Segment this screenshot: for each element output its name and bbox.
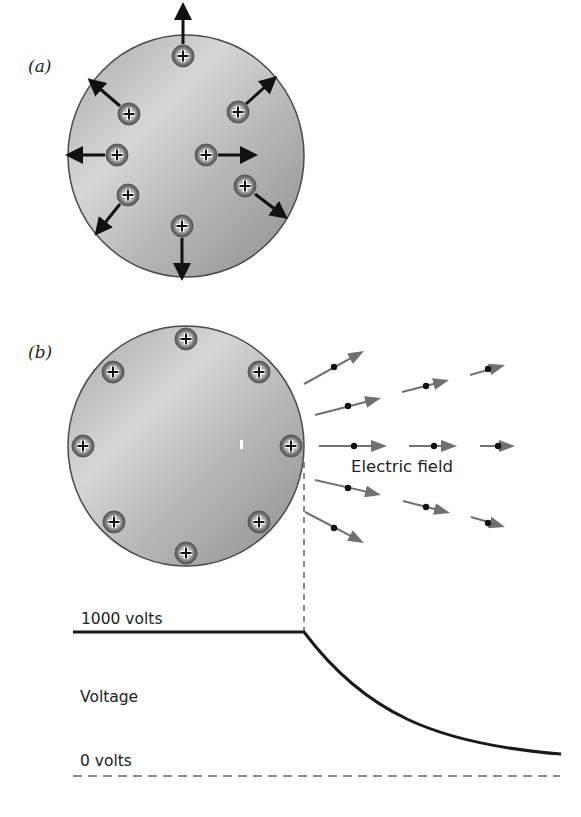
positive-charge-icon bbox=[118, 103, 140, 125]
voltage-1000-label: 1000 volts bbox=[81, 610, 163, 628]
electric-field-diagram: (a) (b) Electric field 1000 volts Voltag… bbox=[0, 0, 581, 817]
panel-a-repelling-charges: (a) bbox=[28, 17, 304, 277]
positive-charge-icon bbox=[248, 361, 270, 383]
positive-charge-icon bbox=[248, 511, 270, 533]
positive-charge-icon bbox=[72, 435, 94, 457]
field-vector-arrow-icon bbox=[402, 383, 435, 392]
field-vector-arrow-icon bbox=[409, 443, 443, 449]
voltage-axis-label: Voltage bbox=[80, 688, 138, 706]
field-vector-arrow-icon bbox=[403, 501, 436, 510]
electric-field-vectors bbox=[304, 358, 501, 537]
positive-charge-icon bbox=[175, 328, 197, 350]
voltage-0-label: 0 volts bbox=[80, 752, 132, 770]
positive-charge-icon bbox=[117, 184, 139, 206]
positive-charge-icon bbox=[102, 361, 124, 383]
panel-b-label: (b) bbox=[28, 342, 52, 362]
field-vector-arrow-icon bbox=[319, 443, 373, 449]
voltage-curve bbox=[73, 632, 561, 754]
positive-charge-icon bbox=[195, 144, 217, 166]
electric-field-label: Electric field bbox=[351, 457, 453, 476]
panel-a-label: (a) bbox=[28, 56, 51, 76]
field-vector-arrow-icon bbox=[315, 401, 367, 415]
field-vector-arrow-icon bbox=[304, 358, 352, 384]
positive-charge-icon bbox=[172, 45, 194, 67]
highlight-mark bbox=[240, 440, 243, 449]
conducting-sphere-b bbox=[68, 326, 304, 566]
positive-charge-icon bbox=[106, 144, 128, 166]
positive-charge-icon bbox=[234, 175, 256, 197]
positive-charge-icon bbox=[175, 542, 197, 564]
field-vector-arrow-icon bbox=[480, 443, 501, 449]
field-vector-arrow-icon bbox=[315, 480, 367, 492]
positive-charge-icon bbox=[171, 215, 193, 237]
positive-charge-icon bbox=[103, 511, 125, 533]
positive-charge-icon bbox=[227, 101, 249, 123]
field-vector-arrow-icon bbox=[471, 517, 492, 526]
field-vector-arrow-icon bbox=[305, 512, 352, 536]
panel-b-surface-charges: (b) Electric field bbox=[28, 326, 501, 566]
positive-charge-icon bbox=[280, 435, 302, 457]
field-vector-arrow-icon bbox=[470, 366, 492, 375]
